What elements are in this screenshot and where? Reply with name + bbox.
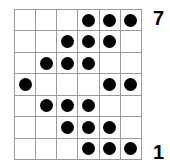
grid-cell-filled xyxy=(57,117,78,138)
grid-cell-empty xyxy=(121,96,142,117)
grid-cell-filled xyxy=(57,53,78,74)
grid-cell-filled xyxy=(36,96,57,117)
grid-label-top: 7 xyxy=(153,8,164,28)
grid-cell-empty xyxy=(36,139,57,160)
grid-cell-filled xyxy=(78,139,99,160)
grid-cell-filled xyxy=(15,74,36,95)
grid-cell-filled xyxy=(121,139,142,160)
grid-cell-filled xyxy=(121,10,142,31)
grid-label-bottom: 1 xyxy=(153,142,164,162)
grid-cell-filled xyxy=(100,117,121,138)
grid-cell-empty xyxy=(121,53,142,74)
grid-cell-filled xyxy=(78,10,99,31)
grid-cell-filled xyxy=(100,31,121,52)
grid-cell-filled xyxy=(78,53,99,74)
grid-cell-filled xyxy=(78,31,99,52)
grid-cell-empty xyxy=(57,139,78,160)
grid-cell-filled xyxy=(121,74,142,95)
grid-cell-empty xyxy=(57,10,78,31)
grid-cell-filled xyxy=(57,96,78,117)
grid-cell-empty xyxy=(36,74,57,95)
grid-cell-filled xyxy=(100,10,121,31)
grid-cell-empty xyxy=(78,74,99,95)
grid-cell-filled xyxy=(36,53,57,74)
grid-cell-empty xyxy=(36,10,57,31)
grid-cell-filled xyxy=(78,117,99,138)
grid-cell-empty xyxy=(15,31,36,52)
grid-cell-empty xyxy=(121,31,142,52)
dot-grid-figure: 7 1 xyxy=(0,0,170,168)
grid-cell-empty xyxy=(15,10,36,31)
grid-cell-empty xyxy=(36,117,57,138)
grid-cell-empty xyxy=(36,31,57,52)
grid-cell-filled xyxy=(100,139,121,160)
grid-cell-empty xyxy=(15,53,36,74)
grid-cell-empty xyxy=(15,117,36,138)
grid-cell-empty xyxy=(15,96,36,117)
grid-cell-empty xyxy=(100,96,121,117)
grid-cell-filled xyxy=(100,74,121,95)
grid-cell-empty xyxy=(57,74,78,95)
grid-cell-filled xyxy=(78,96,99,117)
grid-cell-filled xyxy=(57,31,78,52)
grid-cell-empty xyxy=(15,139,36,160)
grid-cell-empty xyxy=(100,53,121,74)
dot-grid xyxy=(14,9,142,160)
grid-cell-empty xyxy=(121,117,142,138)
